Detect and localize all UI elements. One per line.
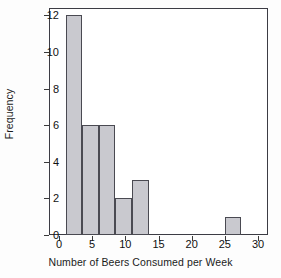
x-axis-tick-label: 25 — [219, 238, 231, 250]
x-axis-tick-label: 5 — [89, 238, 95, 250]
y-axis-tick-label: 8 — [53, 83, 59, 95]
y-axis-tick-label: 2 — [53, 192, 59, 204]
histogram-bar — [82, 125, 99, 235]
y-axis-tick-label: 4 — [53, 156, 59, 168]
y-axis-label: Frequency — [3, 64, 15, 164]
histogram-bar — [225, 217, 242, 235]
y-axis-tick-label: 10 — [47, 46, 59, 58]
y-axis-tick-mark — [44, 89, 49, 90]
y-axis-tick-label: 6 — [53, 119, 59, 131]
x-axis-tick-label: 15 — [152, 238, 164, 250]
x-axis-tick-label: 10 — [119, 238, 131, 250]
y-axis-tick-label: 12 — [47, 9, 59, 21]
histogram-bar — [132, 180, 149, 235]
histogram-chart: 051015202530024681012 Number of Beers Co… — [0, 0, 281, 278]
histogram-bar — [99, 125, 116, 235]
y-axis-tick-mark — [44, 125, 49, 126]
y-axis-tick-mark — [44, 162, 49, 163]
bars-layer — [49, 8, 268, 235]
histogram-bar — [66, 15, 83, 235]
y-axis-tick-label: 0 — [53, 229, 59, 241]
x-axis-tick-label: 30 — [252, 238, 264, 250]
histogram-bar — [115, 198, 132, 235]
y-axis-tick-mark — [44, 235, 49, 236]
x-axis-tick-label: 20 — [186, 238, 198, 250]
y-axis-tick-mark — [44, 198, 49, 199]
x-axis-label: Number of Beers Consumed per Week — [0, 256, 281, 268]
